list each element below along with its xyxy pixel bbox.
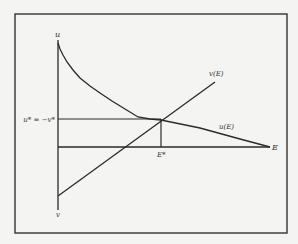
v-curve <box>58 82 215 196</box>
diagram-frame <box>15 14 287 233</box>
axis-u-label: u <box>55 30 60 39</box>
axis-v-label: v <box>56 211 60 219</box>
e-star-label: E* <box>156 151 166 159</box>
u-curve-label: u(E) <box>219 123 234 131</box>
u-curve <box>58 43 270 147</box>
equilibrium-label: u* = −v* <box>23 116 55 124</box>
axis-e-label: E <box>271 143 278 152</box>
v-curve-label: v(E) <box>209 70 224 78</box>
diagram-canvas: u v E u* = −v* E* v(E) u(E) <box>0 0 298 244</box>
